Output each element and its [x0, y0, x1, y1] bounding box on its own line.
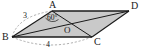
angle-label-a: 60° [47, 14, 58, 22]
vertex-label-c: C [94, 37, 101, 47]
vertex-label-o: O [64, 25, 71, 35]
geometry-figure: A B C D O 3 4 60° [0, 0, 143, 52]
dashed-arc-BC [12, 37, 92, 45]
measure-label-ba: 3 [23, 12, 27, 20]
measure-label-bc: 4 [46, 41, 50, 49]
vertex-label-b: B [2, 32, 9, 42]
vertex-label-a: A [49, 0, 56, 10]
vertex-label-d: D [131, 1, 138, 11]
figure-canvas [0, 0, 143, 52]
